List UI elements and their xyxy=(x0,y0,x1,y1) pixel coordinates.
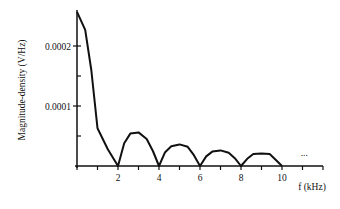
x-tick-label: 2 xyxy=(116,173,121,183)
x-tick-label: 4 xyxy=(157,173,162,183)
x-axis-label: f (kHz) xyxy=(298,182,326,193)
magnitude-density-chart: 2468100.00010.0002 ... Magnitude-density… xyxy=(0,0,340,209)
y-tick-label: 0.0001 xyxy=(45,102,71,112)
continuation-ellipsis: ... xyxy=(301,148,308,158)
data-line xyxy=(77,12,282,166)
x-tick-label: 6 xyxy=(198,173,203,183)
x-tick-label: 10 xyxy=(277,173,287,183)
y-tick-label: 0.0002 xyxy=(45,42,71,52)
x-tick-label: 8 xyxy=(239,173,244,183)
y-axis-label: Magnitude-density (V/Hz) xyxy=(17,39,28,140)
